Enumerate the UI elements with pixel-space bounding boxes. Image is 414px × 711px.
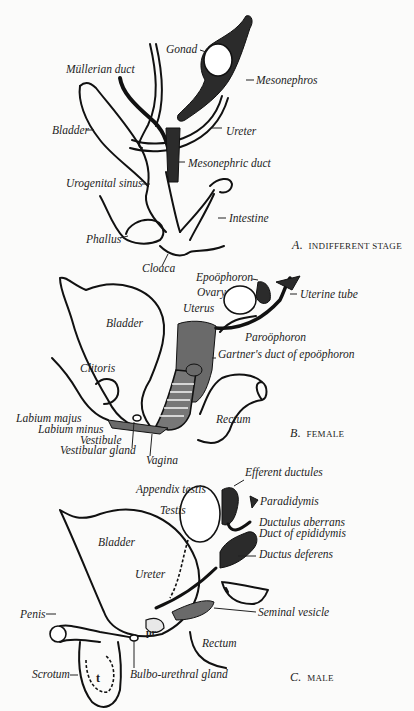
label-bulbo-urethral-gland: Bulbo-urethral gland (130, 668, 228, 681)
label-ureter-c: Ureter (135, 568, 166, 580)
label-mullerian-duct: Müllerian duct (65, 63, 135, 75)
epoophoron-shape (256, 282, 270, 304)
gubernaculum-dashed (170, 540, 188, 598)
label-vestibular-gland: Vestibular gland (60, 444, 136, 457)
label-ductus-deferens: Ductus deferens (258, 548, 334, 561)
duct-of-epididymis-shape (220, 532, 257, 568)
label-gartners-duct: Gartner's duct of epoöphoron (218, 348, 355, 361)
label-bladder-b: Bladder (106, 317, 144, 329)
mark-t: t (96, 671, 100, 685)
caption-b: B. FEMALE (290, 426, 345, 440)
label-vagina: Vagina (146, 454, 178, 467)
bladder-outline-b (60, 278, 164, 427)
seminal-vesicle-shape (172, 601, 214, 620)
label-uterus: Uterus (183, 302, 215, 314)
glans-shape (50, 626, 66, 642)
rectum-outline-c (190, 582, 268, 668)
caption-a: A. INDIFFERENT STAGE (291, 238, 402, 252)
mark-pr: pr (146, 627, 157, 638)
ureter-line (139, 44, 156, 148)
caption-c: C. MALE (290, 670, 334, 684)
paradidymis-shape (250, 496, 258, 508)
panel-c-male: pr t Efferent ductules Appendix testis P… (19, 466, 346, 707)
panel-b-female: Epoöphoron Ovary Uterine tube Uterus Bla… (15, 271, 358, 467)
label-appendix-testis: Appendix testis (135, 483, 206, 496)
label-mesonephros: Mesonephros (255, 74, 318, 87)
label-gonad: Gonad (166, 43, 198, 55)
panel-a-indifferent-stage: Gonad Müllerian duct Mesonephros Bladder… (52, 16, 402, 274)
label-intestine: Intestine (228, 212, 269, 224)
bulbo-urethral-gland-shape (130, 635, 138, 641)
label-uterine-tube: Uterine tube (300, 288, 358, 300)
label-efferent-ductules: Efferent ductules (244, 466, 323, 479)
label-paroophoron: Paroöphoron (244, 331, 306, 344)
label-duct-of-epididymis: Duct of epididymis (258, 527, 346, 540)
label-bladder-a: Bladder (52, 124, 90, 136)
embryology-diagram: Gonad Müllerian duct Mesonephros Bladder… (0, 0, 414, 711)
label-epoophoron: Epoöphoron (195, 271, 253, 284)
label-ovary: Ovary (197, 286, 227, 299)
label-bladder-c: Bladder (98, 536, 136, 548)
ductulus-aberrans-line (228, 522, 250, 530)
ovary-shape (224, 286, 256, 314)
gonad-shape (204, 44, 232, 76)
efferent-ductules-shape (222, 488, 238, 525)
bladder-outline (80, 83, 166, 232)
label-testis: Testis (160, 504, 186, 516)
rectum-outline-b (198, 375, 267, 443)
label-urogenital-sinus: Urogenital sinus (66, 177, 143, 190)
label-mesonephric-duct: Mesonephric duct (187, 157, 272, 170)
label-clitoris: Clitoris (80, 362, 116, 374)
label-phallus: Phallus (85, 233, 122, 245)
label-scrotum: Scrotum (32, 668, 70, 680)
label-penis: Penis (19, 608, 46, 620)
label-ureter-a: Ureter (226, 125, 257, 137)
mesonephric-duct-shape (166, 128, 180, 182)
vestibular-gland-shape (133, 415, 141, 421)
label-seminal-vesicle: Seminal vesicle (258, 606, 329, 618)
intestine-outline (180, 179, 232, 240)
label-rectum-b: Rectum (215, 413, 250, 425)
label-rectum-c: Rectum (201, 637, 236, 649)
label-paradidymis: Paradidymis (259, 495, 319, 508)
cervix-shape (186, 364, 202, 376)
label-cloaca: Cloaca (142, 262, 175, 274)
penis-outline (60, 625, 134, 642)
